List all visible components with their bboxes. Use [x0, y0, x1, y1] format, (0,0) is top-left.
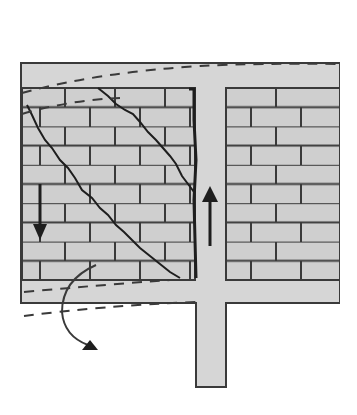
right-panel-intact-infill	[226, 60, 357, 310]
diagram-canvas: Masonry infill wall in frame with diagon…	[0, 0, 357, 415]
left-panel-cracked-infill	[22, 88, 196, 280]
